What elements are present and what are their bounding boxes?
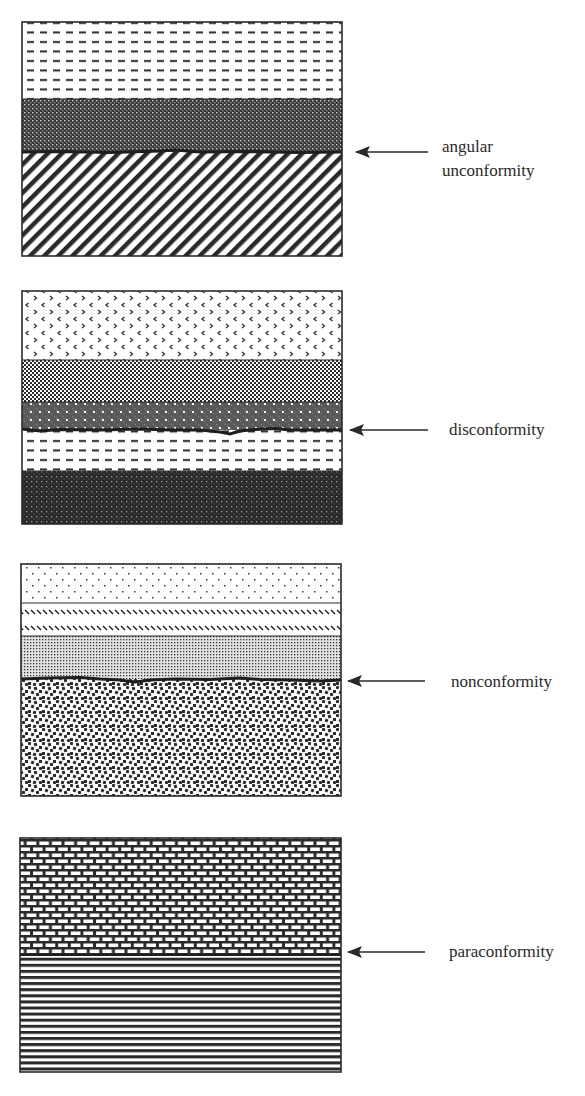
layer-checker (22, 360, 342, 402)
layer-grey-dotted (22, 402, 342, 430)
label-angular-unconformity: angular unconformity (442, 135, 535, 183)
panel-disconformity (22, 291, 428, 524)
label-nonconformity: nonconformity (451, 670, 552, 694)
label-line: nonconformity (451, 670, 552, 694)
label-disconformity: disconformity (449, 418, 544, 442)
layer-backslash (21, 603, 341, 636)
panel-paraconformity (20, 838, 425, 1072)
layer-igneous-basement (21, 679, 341, 796)
label-line: angular (442, 135, 535, 159)
layer-shale (22, 430, 342, 471)
label-line: disconformity (449, 418, 544, 442)
layer-tilted-strata (22, 152, 342, 256)
panel-angular-unconformity (22, 22, 428, 256)
label-line: paraconformity (449, 940, 554, 964)
panel-nonconformity (21, 564, 425, 796)
layer-sandstone (21, 564, 341, 603)
label-paraconformity: paraconformity (449, 940, 554, 964)
layer-limestone (20, 838, 341, 955)
layer-crosshatch-dark (22, 99, 342, 152)
layer-siltstone (21, 636, 341, 679)
label-line: unconformity (442, 159, 535, 183)
layer-shale (22, 22, 342, 99)
layer-laminated-shale (20, 955, 341, 1072)
layer-chevron (22, 291, 342, 360)
layer-dark-dotted (22, 471, 342, 524)
